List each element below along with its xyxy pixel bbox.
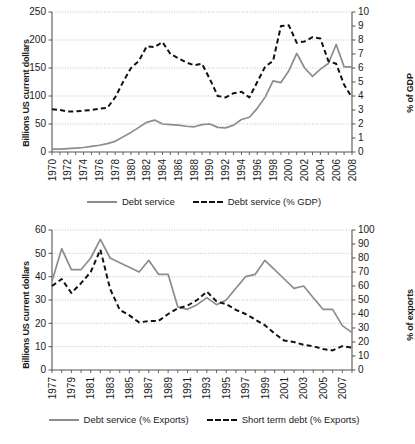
x-tick-label: 2008 bbox=[347, 159, 358, 182]
y-tick-label-left: 50 bbox=[35, 118, 47, 129]
y-tick-label-left: 40 bbox=[35, 271, 47, 282]
x-tick-label: 1984 bbox=[157, 159, 168, 182]
x-tick-label: 1992 bbox=[220, 159, 231, 182]
x-tick-label: 1985 bbox=[124, 377, 135, 400]
y-tick-label-left: 30 bbox=[35, 294, 47, 305]
x-tick-label: 1991 bbox=[182, 377, 193, 400]
x-tick-label: 1998 bbox=[268, 159, 279, 182]
y-tick-label-right: 7 bbox=[358, 48, 364, 59]
x-tick-label: 2006 bbox=[331, 159, 342, 182]
y-tick-label-right: 90 bbox=[358, 238, 370, 249]
y-tick-label-right: 4 bbox=[358, 90, 364, 101]
y-tick-label-right: 9 bbox=[358, 20, 364, 31]
y-tick-label-left: 10 bbox=[35, 341, 47, 352]
top-chart-legend: Debt serviceDebt service (% GDP) bbox=[0, 196, 408, 207]
y-tick-label-right: 10 bbox=[358, 6, 370, 17]
y-tick-label-right: 5 bbox=[358, 76, 364, 87]
x-tick-label: 1976 bbox=[94, 159, 105, 182]
y-tick-label-left: 0 bbox=[40, 146, 46, 157]
legend-item-2: Debt service (% GDP) bbox=[193, 196, 321, 207]
y-tick-label-right: 6 bbox=[358, 62, 364, 73]
y-tick-label-right: 0 bbox=[358, 364, 364, 375]
bottom-chart-legend: Debt service (% Exports)Short term debt … bbox=[0, 414, 408, 425]
legend-label: Debt service bbox=[122, 196, 175, 207]
x-tick-label: 1972 bbox=[62, 159, 73, 182]
series-line-2 bbox=[52, 25, 352, 111]
y-tick-label-right: 3 bbox=[358, 104, 364, 115]
x-tick-label: 2007 bbox=[337, 377, 348, 400]
x-tick-label: 1993 bbox=[201, 377, 212, 400]
y-tick-label-right: 100 bbox=[358, 224, 375, 235]
top-chart-plot-area: 0501001502002500123456789101970197219741… bbox=[0, 0, 408, 200]
y-tick-label-right: 80 bbox=[358, 252, 370, 263]
x-tick-label: 1983 bbox=[105, 377, 116, 400]
x-tick-label: 2000 bbox=[283, 159, 294, 182]
x-tick-label: 2004 bbox=[315, 159, 326, 182]
chart-top-debt-service-gdp: Billions US current dollars % of GDP 050… bbox=[0, 0, 408, 222]
y-tick-label-right: 2 bbox=[358, 118, 364, 129]
legend-solid-swatch bbox=[49, 419, 79, 421]
y-tick-label-left: 100 bbox=[29, 90, 46, 101]
y-tick-label-right: 30 bbox=[358, 322, 370, 333]
y-tick-label-right: 40 bbox=[358, 308, 370, 319]
y-tick-label-left: 200 bbox=[29, 34, 46, 45]
x-tick-label: 1980 bbox=[126, 159, 137, 182]
x-tick-label: 1996 bbox=[252, 159, 263, 182]
x-tick-label: 1981 bbox=[85, 377, 96, 400]
legend-dashed-swatch bbox=[207, 419, 237, 421]
legend-item-2: Short term debt (% Exports) bbox=[207, 414, 360, 425]
bottom-chart-plot-area: 0102030405060010203040506070809010019771… bbox=[0, 222, 408, 418]
x-tick-label: 1978 bbox=[110, 159, 121, 182]
x-tick-label: 1994 bbox=[236, 159, 247, 182]
legend-label: Short term debt (% Exports) bbox=[242, 414, 360, 425]
x-tick-label: 2002 bbox=[299, 159, 310, 182]
x-tick-label: 1982 bbox=[141, 159, 152, 182]
legend-solid-swatch bbox=[87, 201, 117, 203]
y-tick-label-left: 60 bbox=[35, 224, 47, 235]
y-tick-label-left: 20 bbox=[35, 318, 47, 329]
x-tick-label: 2005 bbox=[318, 377, 329, 400]
y-tick-label-right: 0 bbox=[358, 146, 364, 157]
x-tick-label: 1995 bbox=[221, 377, 232, 400]
y-tick-label-left: 250 bbox=[29, 6, 46, 17]
y-tick-label-right: 50 bbox=[358, 294, 370, 305]
y-tick-label-right: 20 bbox=[358, 336, 370, 347]
y-tick-label-left: 150 bbox=[29, 62, 46, 73]
y-tick-label-right: 1 bbox=[358, 132, 364, 143]
x-tick-label: 1989 bbox=[163, 377, 174, 400]
y-tick-label-left: 0 bbox=[40, 364, 46, 375]
x-tick-label: 1979 bbox=[66, 377, 77, 400]
x-tick-label: 1990 bbox=[204, 159, 215, 182]
legend-item-1: Debt service bbox=[87, 196, 175, 207]
x-tick-label: 1974 bbox=[78, 159, 89, 182]
x-tick-label: 1986 bbox=[173, 159, 184, 182]
x-tick-label: 1997 bbox=[240, 377, 251, 400]
y-tick-label-right: 8 bbox=[358, 34, 364, 45]
x-tick-label: 1977 bbox=[47, 377, 58, 400]
x-tick-label: 1999 bbox=[260, 377, 271, 400]
y-tick-label-right: 60 bbox=[358, 280, 370, 291]
legend-label: Debt service (% GDP) bbox=[228, 196, 321, 207]
series-line-1 bbox=[52, 44, 352, 149]
y-tick-label-left: 50 bbox=[35, 248, 47, 259]
legend-item-1: Debt service (% Exports) bbox=[49, 414, 189, 425]
x-tick-label: 2003 bbox=[298, 377, 309, 400]
x-tick-label: 1970 bbox=[47, 159, 58, 182]
y-tick-label-right: 70 bbox=[358, 266, 370, 277]
legend-label: Debt service (% Exports) bbox=[84, 414, 189, 425]
legend-dashed-swatch bbox=[193, 201, 223, 203]
x-tick-label: 1988 bbox=[189, 159, 200, 182]
x-tick-label: 1987 bbox=[143, 377, 154, 400]
y-tick-label-right: 10 bbox=[358, 350, 370, 361]
chart-bottom-debt-service-exports: Billions US current dollars % of exports… bbox=[0, 222, 408, 444]
x-tick-label: 2001 bbox=[279, 377, 290, 400]
